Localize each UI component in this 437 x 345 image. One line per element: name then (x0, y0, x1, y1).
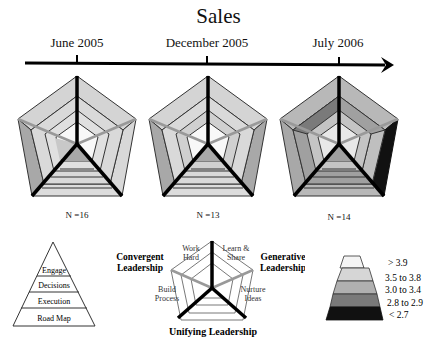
legend: > 3.9 3.5 to 3.8 3.0 to 3.4 2.8 to 2.9 <… (300, 245, 437, 345)
legend-label-2: 3.5 to 3.8 (385, 273, 421, 283)
axis-label-hard: Hard (183, 253, 199, 262)
key-radar-diagram: Work Hard Learn & Share Build Process Nu… (105, 230, 305, 345)
group-label-generative: Generative (261, 252, 305, 262)
group-label-unifying: Unifying Leadership (169, 326, 258, 337)
pyramid-diagram: Engage Decisions Execution Road Map (0, 230, 110, 340)
pyramid-level-engage: Engage (42, 266, 66, 275)
group-label-convergent-leadership: Leadership (117, 263, 163, 273)
radar-june-2005 (7, 72, 147, 202)
pyramid-level-decisions: Decisions (38, 281, 70, 290)
legend-label-5: < 2.7 (389, 310, 409, 320)
axis-label-build: Build (158, 285, 176, 294)
pyramid-level-execution: Execution (38, 297, 70, 306)
radar-december-2005 (138, 72, 278, 202)
radar-july-2006 (269, 72, 419, 202)
axis-label-nurture: Nurture (241, 285, 266, 294)
legend-label-3: 3.0 to 3.4 (385, 285, 421, 295)
axis-label-work: Work (182, 244, 200, 253)
n-label-june-2005: N =16 (66, 210, 89, 220)
n-label-july-2006: N =14 (328, 212, 351, 222)
axis-label-share: Share (227, 253, 246, 262)
legend-label-1: > 3.9 (388, 258, 408, 268)
pyramid-level-road-map: Road Map (37, 314, 71, 323)
axis-label-ideas: Ideas (245, 294, 262, 303)
group-label-convergent: Convergent (116, 252, 164, 262)
group-label-generative-leadership: Leadership (260, 263, 305, 273)
n-label-december-2005: N =13 (197, 210, 220, 220)
axis-label-process: Process (155, 294, 179, 303)
axis-label-learn: Learn & (223, 244, 251, 253)
legend-label-4: 2.8 to 2.9 (387, 298, 423, 308)
